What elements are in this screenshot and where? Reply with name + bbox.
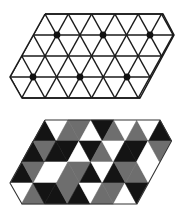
marked-vertex-dot — [124, 74, 131, 81]
marked-vertex-dot — [147, 32, 154, 39]
colored-triangles — [10, 120, 172, 204]
lattice-figure — [0, 0, 187, 217]
marked-vertex-dot — [30, 74, 37, 81]
bottom-colored-lattice — [10, 120, 172, 204]
marked-vertex-dot — [100, 32, 107, 39]
marked-vertex-dot — [77, 74, 84, 81]
marked-vertex-dot — [54, 32, 61, 39]
